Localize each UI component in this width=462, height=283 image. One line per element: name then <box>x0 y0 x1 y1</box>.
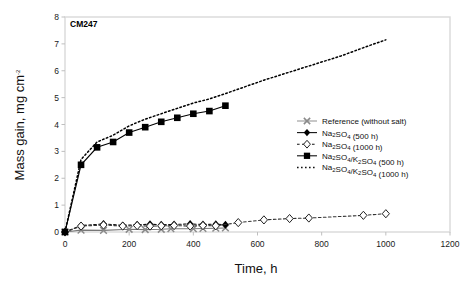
marker-filled-square <box>222 102 229 109</box>
x-tick-label: 1200 <box>441 239 460 249</box>
y-axis-title: Mass gain, mg cm-2 <box>12 69 27 180</box>
y-tick-label: 3 <box>54 146 59 156</box>
marker-filled-square <box>142 124 149 131</box>
y-tick-label: 5 <box>54 93 59 103</box>
chart-container: 012345678 020040060080010001200 Referenc… <box>0 0 462 283</box>
marker-filled-square <box>126 129 133 136</box>
panel-label: CM247 <box>70 19 98 29</box>
x-tick-label: 600 <box>250 239 264 249</box>
x-tick-label: 800 <box>315 239 329 249</box>
x-tick-label: 0 <box>63 239 68 249</box>
marker-filled-square <box>174 114 181 121</box>
svg-text:Mass gain, mg cm-2: Mass gain, mg cm-2 <box>12 69 27 180</box>
y-tick-label: 0 <box>54 227 59 237</box>
legend-label: Reference (without salt) <box>322 117 407 126</box>
x-axis-title: Time, h <box>235 261 278 276</box>
marker-filled-square <box>190 110 197 117</box>
y-axis-title-superscript: -2 <box>15 69 21 75</box>
mass-gain-vs-time-chart: 012345678 020040060080010001200 Referenc… <box>0 0 462 283</box>
y-tick-label: 6 <box>54 66 59 76</box>
marker-filled-square <box>206 108 213 115</box>
y-tick-label: 8 <box>54 12 59 22</box>
y-tick-label: 4 <box>54 120 59 130</box>
marker-filled-square <box>304 153 310 159</box>
y-tick-label: 1 <box>54 200 59 210</box>
marker-filled-square <box>78 162 85 169</box>
y-tick-label: 2 <box>54 173 59 183</box>
marker-filled-square <box>158 119 165 126</box>
y-axis-title-main: Mass gain, mg cm <box>12 75 27 180</box>
x-tick-label: 1000 <box>376 239 395 249</box>
x-tick-label: 200 <box>122 239 136 249</box>
x-tick-label: 400 <box>186 239 200 249</box>
marker-filled-square <box>110 139 117 146</box>
y-tick-label: 7 <box>54 39 59 49</box>
